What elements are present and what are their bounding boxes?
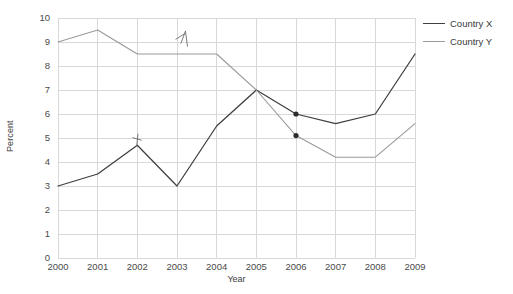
x-tick-label: 2009 — [393, 262, 437, 272]
y-tick-label: 1 — [24, 229, 50, 239]
x-tick-label: 2004 — [195, 262, 239, 272]
legend-label: Country X — [450, 18, 492, 29]
x-tick-label: 2008 — [353, 262, 397, 272]
y-tick-label: 7 — [24, 85, 50, 95]
y-tick-label: 2 — [24, 205, 50, 215]
plot-area — [58, 18, 415, 258]
legend-line-swatch — [423, 23, 445, 24]
legend-item-country-x[interactable]: Country X — [423, 14, 511, 32]
y-tick-label: 4 — [24, 157, 50, 167]
y-tick-label: 9 — [24, 37, 50, 47]
y-tick-label: 10 — [24, 13, 50, 23]
x-tick-label: 2003 — [155, 262, 199, 272]
y-tick-label: 3 — [24, 181, 50, 191]
gridlines — [58, 18, 415, 258]
y-tick-label: 5 — [24, 133, 50, 143]
x-tick-label: 2002 — [115, 262, 159, 272]
x-tick-label: 2006 — [274, 262, 318, 272]
legend-item-country-y[interactable]: Country Y — [423, 32, 511, 50]
plot-svg — [58, 18, 415, 258]
dot-marker-country-x-2006 — [293, 111, 298, 116]
x-tick-label: 2005 — [234, 262, 278, 272]
x-tick-label: 2000 — [36, 262, 80, 272]
data-series-layer — [58, 30, 415, 186]
y-tick-label: 6 — [24, 109, 50, 119]
dot-marker-country-y-2006 — [293, 133, 298, 138]
legend-line-swatch — [423, 41, 445, 42]
x-axis-title: Year — [58, 274, 415, 284]
pen-mark-2003 — [176, 31, 188, 46]
x-tick-label: 2007 — [314, 262, 358, 272]
series-line-country-x — [58, 54, 415, 186]
x-tick-label: 2001 — [76, 262, 120, 272]
legend-label: Country Y — [450, 36, 492, 47]
legend: Country XCountry Y — [423, 14, 511, 50]
y-tick-label: 8 — [24, 61, 50, 71]
y-axis-title: Percent — [2, 96, 18, 176]
y-tick-label: 0 — [24, 253, 50, 263]
line-chart: Percent 109876543210 2000200120022003200… — [0, 0, 513, 294]
